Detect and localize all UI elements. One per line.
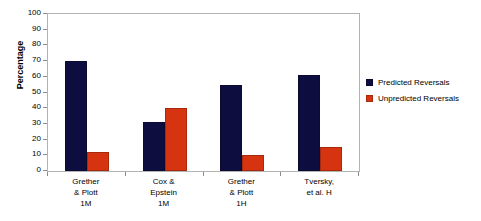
y-tick-label: 80	[1, 40, 41, 48]
y-tick-label: 20	[1, 135, 41, 143]
y-tick-label: 10	[1, 150, 41, 158]
x-axis-label-line: 1M	[125, 198, 203, 209]
x-axis-label-line: Tversky,	[280, 176, 358, 187]
bar-group	[48, 14, 126, 171]
x-axis-label: Grether& Plott1M	[47, 176, 125, 209]
x-tick-mark	[125, 172, 126, 176]
legend-entry-predicted: Predicted Reversals	[366, 78, 478, 87]
x-axis-label-line: Grether	[203, 176, 281, 187]
chart-legend: Predicted Reversals Unpredicted Reversal…	[366, 78, 478, 110]
x-axis-labels: Grether& Plott1MCox &Epstein1MGrether& P…	[47, 176, 360, 220]
legend-swatch-icon-predicted	[366, 79, 373, 86]
bar-group	[281, 14, 359, 171]
bar-unpredicted	[165, 108, 187, 171]
x-axis-label-line: Cox &	[125, 176, 203, 187]
bar-predicted	[65, 61, 87, 171]
x-axis-label-line: 1M	[47, 198, 125, 209]
y-tick-label: 60	[1, 72, 41, 80]
y-tick-label: 70	[1, 56, 41, 64]
x-axis-label-line: & Plott	[47, 187, 125, 198]
x-axis-label-line: Epstein	[125, 187, 203, 198]
x-axis-label-line: et al. H	[280, 187, 358, 198]
bars-layer	[48, 14, 359, 171]
y-tick-label: 0	[1, 166, 41, 174]
x-axis-label: Tversky,et al. H	[280, 176, 358, 198]
bar-group	[126, 14, 204, 171]
bar-group	[204, 14, 282, 171]
y-tick-label: 90	[1, 25, 41, 33]
x-axis-label-line: & Plott	[203, 187, 281, 198]
y-tick-label: 30	[1, 119, 41, 127]
bar-unpredicted	[320, 147, 342, 171]
bar-unpredicted	[242, 155, 264, 171]
x-tick-mark	[47, 172, 48, 176]
y-tick-label: 50	[1, 88, 41, 96]
legend-entry-unpredicted: Unpredicted Reversals	[366, 94, 478, 103]
y-tick-label: 100	[1, 9, 41, 17]
x-axis-label-line: Grether	[47, 176, 125, 187]
legend-label-predicted: Predicted Reversals	[378, 78, 450, 87]
bar-predicted	[220, 85, 242, 171]
x-axis-label: Grether& Plott1H	[203, 176, 281, 209]
x-tick-mark	[203, 172, 204, 176]
x-axis-label-line: 1H	[203, 198, 281, 209]
legend-swatch-icon-unpredicted	[366, 95, 373, 102]
legend-label-unpredicted: Unpredicted Reversals	[378, 94, 459, 103]
y-axis-ticks: 1009080706050403020100	[0, 13, 47, 172]
bar-predicted	[298, 75, 320, 171]
x-tick-mark	[358, 172, 359, 176]
bar-unpredicted	[87, 152, 109, 171]
bar-predicted	[143, 122, 165, 171]
bar-chart: Percentage 1009080706050403020100 Grethe…	[0, 0, 481, 221]
y-tick-label: 40	[1, 103, 41, 111]
x-axis-label: Cox &Epstein1M	[125, 176, 203, 209]
x-tick-mark	[280, 172, 281, 176]
